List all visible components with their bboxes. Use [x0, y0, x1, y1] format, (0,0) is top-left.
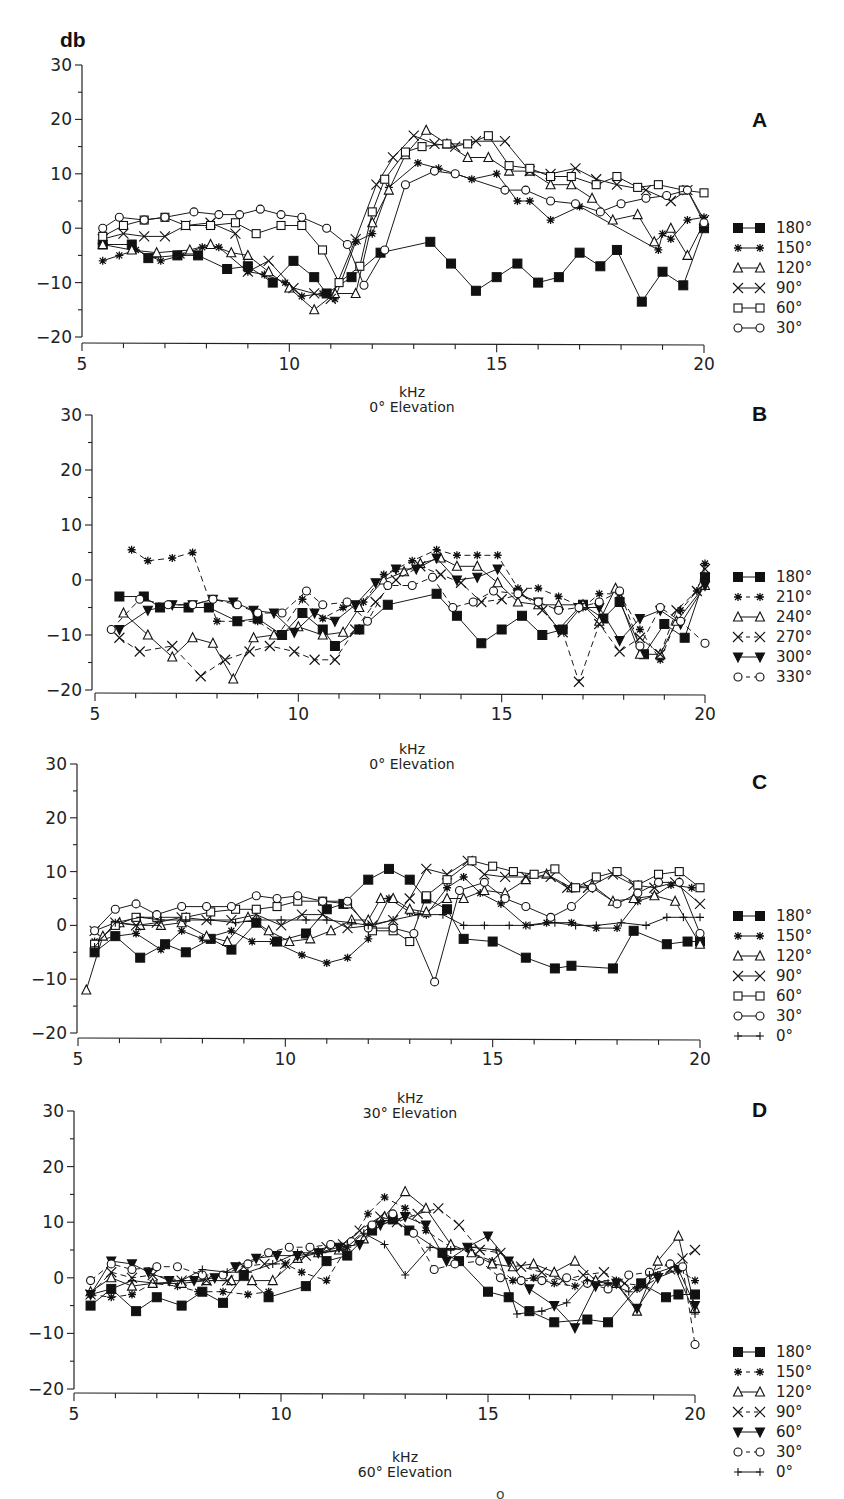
panel-label-a: A [752, 108, 767, 132]
x-tick-label: 5 [69, 1404, 80, 1424]
figure: db 3020100−10−2051015203020100−10−205101… [0, 0, 844, 1499]
legend-marker-icon [732, 989, 766, 1003]
legend-label: 180° [776, 218, 812, 238]
legend-marker-icon [732, 1345, 766, 1359]
legend-item: 30° [732, 318, 812, 338]
legend-marker-icon [732, 590, 766, 604]
y-tick-label: −20 [36, 327, 72, 347]
x-tick-label: 15 [477, 1404, 499, 1424]
x-tick-label: 10 [270, 1404, 292, 1424]
legend-marker-icon [732, 281, 766, 295]
legend-item: 270° [732, 627, 812, 647]
legend: 180°150°120°90°60°30° [732, 218, 812, 338]
y-tick-label: 30 [50, 55, 72, 75]
legend-item: 0° [732, 1462, 812, 1482]
legend-label: 0° [776, 1462, 793, 1482]
legend-marker-icon [732, 670, 766, 684]
x-tick-label: 15 [491, 704, 513, 724]
legend-label: 90° [776, 278, 803, 298]
y-tick-label: 0 [56, 915, 67, 935]
x-tick-label: 20 [693, 354, 715, 374]
legend-label: 300° [776, 647, 812, 667]
y-tick-label: 30 [45, 754, 67, 774]
legend-label: 180° [776, 906, 812, 926]
legend-label: 270° [776, 627, 812, 647]
legend-item: 30° [732, 1006, 812, 1026]
panel-label-d: D [752, 1098, 767, 1122]
y-tick-label: −20 [28, 1379, 64, 1399]
legend-item: 180° [732, 218, 812, 238]
legend-item: 60° [732, 1422, 812, 1442]
panel-label-c: C [752, 770, 767, 794]
page-mark: o [496, 1486, 505, 1499]
legend-item: 60° [732, 986, 812, 1006]
y-tick-label: 10 [60, 515, 82, 535]
legend-marker-icon [732, 969, 766, 983]
legend-label: 150° [776, 1362, 812, 1382]
series-60deg [99, 132, 708, 287]
legend-label: 150° [776, 238, 812, 258]
legend-item: 120° [732, 946, 812, 966]
legend-item: 90° [732, 278, 812, 298]
legend-marker-icon [732, 630, 766, 644]
y-tick-label: −10 [36, 273, 72, 293]
y-tick-label: 20 [60, 460, 82, 480]
x-tick-label: 10 [275, 1049, 297, 1069]
x-tick-label: 20 [694, 704, 716, 724]
x-tick-label: 20 [684, 1404, 706, 1424]
legend-marker-icon [732, 1385, 766, 1399]
y-tick-label: 20 [50, 109, 72, 129]
legend-marker-icon [732, 570, 766, 584]
legend-item: 90° [732, 1402, 812, 1422]
elevation-label: 30° Elevation [310, 1106, 510, 1121]
y-tick-label: −20 [46, 680, 82, 700]
legend-item: 150° [732, 238, 812, 258]
legend-item: 60° [732, 298, 812, 318]
legend-marker-icon [732, 221, 766, 235]
legend-item: 150° [732, 926, 812, 946]
x-axis-label: kHz [312, 742, 512, 757]
y-tick-label: 30 [42, 1101, 64, 1121]
legend-label: 210° [776, 587, 812, 607]
legend-marker-icon [732, 650, 766, 664]
legend-label: 180° [776, 1342, 812, 1362]
legend-item: 180° [732, 1342, 812, 1362]
x-axis-label: kHz [305, 1450, 505, 1465]
y-unit-label: db [60, 28, 86, 52]
legend-label: 60° [776, 986, 803, 1006]
legend-label: 330° [776, 667, 812, 687]
legend-item: 330° [732, 667, 812, 687]
y-tick-label: −10 [31, 969, 67, 989]
legend-marker-icon [732, 241, 766, 255]
legend-marker-icon [732, 1425, 766, 1439]
elevation-label: 0° Elevation [312, 400, 512, 415]
elevation-label: 60° Elevation [305, 1465, 505, 1480]
x-tick-label: 10 [288, 704, 310, 724]
panel-d: 3020100−10−205101520 [28, 1101, 706, 1424]
legend-label: 60° [776, 1422, 803, 1442]
legend-item: 0° [732, 1026, 812, 1046]
legend: 180°150°120°90°60°30°0° [732, 1342, 812, 1482]
legend-marker-icon [732, 301, 766, 315]
legend-marker-icon [732, 1029, 766, 1043]
y-tick-label: 0 [61, 218, 72, 238]
y-tick-label: −10 [28, 1323, 64, 1343]
y-tick-label: 10 [50, 164, 72, 184]
series-30deg [87, 1210, 699, 1349]
series-240deg [119, 553, 710, 683]
y-tick-label: −20 [31, 1023, 67, 1043]
y-tick-label: 20 [45, 808, 67, 828]
legend-item: 120° [732, 258, 812, 278]
legend-item: 30° [732, 1442, 812, 1462]
legend-item: 240° [732, 607, 812, 627]
legend-item: 150° [732, 1362, 812, 1382]
legend-label: 0° [776, 1026, 793, 1046]
legend: 180°150°120°90°60°30°0° [732, 906, 812, 1046]
legend-item: 120° [732, 1382, 812, 1402]
x-tick-label: 20 [689, 1049, 711, 1069]
x-axis-label: kHz [310, 1091, 510, 1106]
legend-label: 120° [776, 1382, 812, 1402]
legend-marker-icon [732, 1365, 766, 1379]
legend-marker-icon [732, 1009, 766, 1023]
legend-label: 120° [776, 258, 812, 278]
